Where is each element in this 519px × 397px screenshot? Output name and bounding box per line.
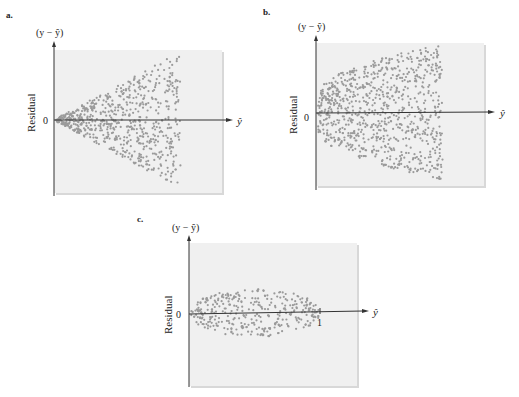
panel-b-point [335, 100, 337, 102]
panel-a-point [138, 165, 140, 167]
panel-a-point [106, 136, 108, 138]
panel-b-point [408, 138, 410, 140]
panel-b-point [401, 55, 403, 57]
panel-b-point [338, 91, 340, 93]
panel-c-point [251, 290, 253, 292]
panel-b-point [427, 143, 429, 145]
panel-a-point [96, 137, 98, 139]
panel-c-point [305, 301, 307, 303]
panel-b-point [432, 148, 434, 150]
panel-a-point [176, 58, 178, 60]
panel-a-point [167, 127, 169, 129]
panel-b-point [386, 81, 388, 83]
panel-b-point [439, 155, 441, 157]
panel-b-point [331, 137, 333, 139]
panel-a-point [106, 96, 108, 98]
panel-b-point [320, 122, 322, 124]
panel-a-point [174, 117, 176, 119]
panel-b-point [434, 106, 436, 108]
panel-b-point [364, 110, 366, 112]
panel-a-point [98, 124, 100, 126]
panel-a-point [157, 156, 159, 158]
panel-b-point [355, 69, 357, 71]
panel-c-point [268, 335, 270, 337]
panel-b-point [408, 104, 410, 106]
panel-b-point [345, 124, 347, 126]
panel-a-point [75, 110, 77, 112]
panel-b-point [418, 63, 420, 65]
panel-b-point [434, 74, 436, 76]
panel-b-point [405, 76, 407, 78]
panel-a: a. (y − ŷ) Residual 0 ŷ [6, 10, 242, 196]
panel-c-point [218, 321, 220, 323]
panel-c-point [256, 313, 258, 315]
panel-c-point [210, 311, 212, 313]
panel-b-point [424, 170, 426, 172]
panel-b-point [411, 130, 413, 132]
panel-b-point [320, 104, 322, 106]
panel-b-point [416, 75, 418, 77]
panel-b-point [429, 169, 431, 171]
panel-a-point [169, 148, 171, 150]
panel-c-point [199, 302, 201, 304]
panel-a-point [166, 100, 168, 102]
panel-b-point [379, 114, 381, 116]
panel-b-point [352, 149, 354, 151]
panel-c-point [247, 331, 249, 333]
panel-b-point [396, 167, 398, 169]
panel-b-point [397, 59, 399, 61]
panel-b-point [422, 133, 424, 135]
panel-b-point [396, 87, 398, 89]
panel-c-point [209, 318, 211, 320]
panel-a-point [146, 74, 148, 76]
panel-a-point [175, 154, 177, 156]
panel-b-point [350, 82, 352, 84]
panel-a-point [143, 97, 145, 99]
panel-c-point [253, 324, 255, 326]
panel-a-point [134, 121, 136, 123]
panel-b-point [366, 124, 368, 126]
panel-b-point [342, 100, 344, 102]
panel-a-point [168, 88, 170, 90]
panel-b-point [435, 114, 437, 116]
panel-c-point [303, 326, 305, 328]
panel-c-point [281, 330, 283, 332]
panel-a-point [169, 76, 171, 78]
panel-b-point [358, 77, 360, 79]
panel-b-point [428, 90, 430, 92]
panel-a-point [80, 123, 82, 125]
panel-b-point [432, 176, 434, 178]
panel-c-point [294, 300, 296, 302]
panel-b-point [370, 126, 372, 128]
panel-b-point [351, 101, 353, 103]
panel-a-point [129, 114, 131, 116]
panel-b-point [400, 52, 402, 54]
panel-a-point [170, 150, 172, 152]
panel-c-point [313, 319, 315, 321]
panel-b-point [424, 121, 426, 123]
panel-a-point [158, 123, 160, 125]
panel-b-point [386, 67, 388, 69]
panel-b-point [421, 114, 423, 116]
panel-c-point [308, 308, 310, 310]
panel-b-point [378, 88, 380, 90]
panel-b-point [324, 111, 326, 113]
panel-a-point [158, 151, 160, 153]
panel-b-point [320, 90, 322, 92]
panel-a-point [96, 142, 98, 144]
panel-b-point [320, 115, 322, 117]
panel-a-point [152, 90, 154, 92]
panel-b-point [390, 148, 392, 150]
panel-a-point [95, 110, 97, 112]
panel-a-point [81, 110, 83, 112]
panel-b-point [363, 119, 365, 121]
panel-b-point [436, 50, 438, 52]
panel-b-point [400, 163, 402, 165]
panel-a-point [136, 132, 138, 134]
panel-a-point [172, 171, 174, 173]
panel-b-point [403, 157, 405, 159]
panel-a-point [77, 125, 79, 127]
panel-a-point [66, 117, 68, 119]
panel-b-point [364, 141, 366, 143]
panel-c-point [251, 322, 253, 324]
